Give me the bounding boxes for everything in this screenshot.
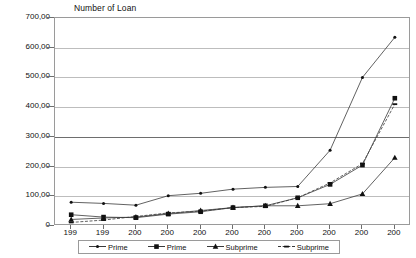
- x-axis-tick-label: 199: [88, 228, 118, 237]
- data-point-dot: [96, 245, 99, 248]
- data-point-dash: [328, 182, 333, 184]
- data-point-dash: [166, 212, 171, 214]
- data-point-dash: [198, 210, 203, 212]
- data-point-dash: [360, 163, 365, 165]
- x-axis-tick-label: 200: [185, 228, 215, 237]
- y-axis-tick-mark: [47, 136, 54, 137]
- y-axis-tick-mark: [47, 17, 54, 18]
- series-line: [71, 98, 395, 217]
- data-point-square: [69, 212, 74, 217]
- y-axis-tick-mark: [47, 47, 54, 48]
- x-axis-tick-label: 200: [314, 228, 344, 237]
- y-axis-tick-mark: [47, 76, 54, 77]
- x-axis-tick-label: 199: [55, 228, 85, 237]
- data-point-triangle: [212, 244, 218, 249]
- y-axis-tick-mark: [47, 106, 54, 107]
- data-point-dash: [231, 207, 236, 209]
- data-point-dot: [264, 186, 267, 189]
- data-point-dot: [70, 201, 73, 204]
- series-lines: [55, 18, 411, 226]
- x-axis-tick-label: 200: [282, 228, 312, 237]
- data-point-dot: [329, 149, 332, 152]
- legend-label: Prime: [167, 243, 187, 252]
- x-axis-tick-label: 200: [346, 228, 376, 237]
- y-axis-tick-mark: [47, 166, 54, 167]
- legend-label: Subprime: [226, 243, 258, 252]
- y-axis-tick-label: 100,00: [4, 190, 50, 199]
- chart-container: Number of Loan 700,00600,00500,00400,003…: [0, 0, 416, 258]
- legend-label: Subprime: [297, 243, 329, 252]
- data-point-dot: [361, 76, 364, 79]
- series-line: [71, 37, 395, 205]
- data-point-dash: [392, 103, 397, 105]
- legend-marker-dot-icon: [89, 243, 106, 251]
- data-point-dot: [232, 188, 235, 191]
- y-axis-tick-mark: [47, 195, 54, 196]
- data-point-dot: [167, 194, 170, 197]
- data-point-dash: [101, 219, 106, 221]
- legend-item-2[interactable]: Subprime: [197, 241, 268, 253]
- series-1-prime: [69, 96, 397, 220]
- data-point-dash: [284, 246, 289, 248]
- data-point-dot: [296, 185, 299, 188]
- x-axis-tick-label: 200: [379, 228, 409, 237]
- data-point-dot: [199, 192, 202, 195]
- data-point-dot: [134, 204, 137, 207]
- y-axis-tick-label: 0: [4, 220, 50, 229]
- x-axis-tick-label: 200: [120, 228, 150, 237]
- legend-item-0[interactable]: Prime: [79, 241, 138, 253]
- x-axis-tick-label: 200: [152, 228, 182, 237]
- data-point-square: [393, 96, 398, 101]
- y-axis-tick-label: 500,00: [4, 71, 50, 80]
- data-point-dot: [102, 202, 105, 205]
- y-axis-tick-mark: [47, 225, 54, 226]
- legend-item-3[interactable]: Subprime: [268, 241, 339, 253]
- y-axis-tick-label: 200,00: [4, 161, 50, 170]
- legend-marker-triangle-icon: [207, 243, 224, 251]
- data-point-square: [154, 244, 159, 249]
- legend-item-1[interactable]: Prime: [138, 241, 197, 253]
- series-0-prime: [70, 36, 397, 207]
- data-point-triangle: [392, 155, 398, 160]
- plot-area: [54, 17, 410, 225]
- y-axis-tick-label: 300,00: [4, 131, 50, 140]
- x-axis-tick-label: 200: [217, 228, 247, 237]
- y-axis-tick-label: 600,00: [4, 42, 50, 51]
- y-axis-tick-label: 700,00: [4, 12, 50, 21]
- data-point-dash: [263, 205, 268, 207]
- chart-legend: PrimePrimeSubprimeSubprime: [78, 240, 340, 254]
- legend-marker-square-icon: [148, 243, 165, 251]
- data-point-dot: [393, 36, 396, 39]
- chart-title: Number of Loan: [74, 3, 136, 13]
- data-point-dash: [134, 216, 139, 218]
- legend-marker-dash-icon: [278, 243, 295, 251]
- data-point-dash: [69, 222, 74, 224]
- x-axis-tick-label: 200: [249, 228, 279, 237]
- data-point-dash: [295, 197, 300, 199]
- y-axis-tick-label: 400,00: [4, 101, 50, 110]
- legend-label: Prime: [108, 243, 128, 252]
